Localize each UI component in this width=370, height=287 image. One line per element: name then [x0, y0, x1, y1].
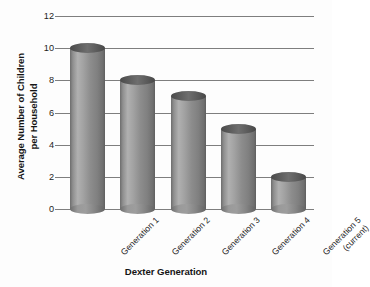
x-axis-tick-label-line: Generation 2	[169, 215, 211, 257]
bar-top-ellipse	[271, 172, 306, 182]
bar	[271, 172, 306, 209]
bar-top-ellipse	[221, 124, 256, 134]
y-axis-tick-mark	[55, 177, 62, 178]
bar-base-ellipse	[171, 204, 206, 214]
y-axis-tick-label: 8	[32, 75, 54, 85]
x-axis-tick-label: Generation 1	[119, 215, 162, 258]
bar	[120, 75, 155, 209]
bar-base-ellipse	[120, 204, 155, 214]
bar	[70, 43, 105, 209]
x-axis-tick-label-line: Generation 4	[270, 215, 312, 257]
y-axis-tick-label: 12	[32, 11, 54, 21]
x-axis-tick-label: Generation 2	[169, 215, 212, 258]
bar-base-ellipse	[70, 204, 105, 214]
bar-body	[120, 80, 155, 209]
bar-body	[221, 129, 256, 209]
y-axis-tick-label: 10	[32, 43, 54, 53]
x-axis-tick-label: Generation 5(current)	[320, 215, 370, 265]
y-axis-tick-mark	[55, 48, 62, 49]
y-axis-tick-label: 6	[32, 108, 54, 118]
x-axis-title: Dexter Generation	[0, 266, 332, 277]
x-axis-tick-label-line: Generation 3	[220, 215, 262, 257]
plot-area	[62, 16, 314, 209]
y-axis-tick-mark	[55, 209, 62, 210]
bar-body	[171, 96, 206, 209]
y-axis-tick-label: 4	[32, 140, 54, 150]
bar-body	[70, 48, 105, 209]
y-axis-tick-mark	[55, 113, 62, 114]
y-axis-tick-mark	[55, 80, 62, 81]
y-axis-tick-labels: 024681012	[32, 0, 54, 287]
bar-base-ellipse	[221, 204, 256, 214]
y-axis-tick-mark	[55, 16, 62, 17]
x-axis-tick-label: Generation 3	[220, 215, 263, 258]
y-axis-title-line1: Average Number of Children	[15, 53, 26, 180]
bar	[221, 124, 256, 209]
bar-series	[62, 16, 314, 209]
y-axis-tick-label: 2	[32, 172, 54, 182]
x-axis-tick-label-line: Generation 1	[119, 215, 161, 257]
bar	[171, 91, 206, 209]
x-axis-tick-label: Generation 4	[270, 215, 313, 258]
x-axis-tick-labels: Generation 1Generation 2Generation 3Gene…	[62, 211, 314, 271]
y-axis-tick-mark	[55, 145, 62, 146]
y-axis-tick-label: 0	[32, 204, 54, 214]
